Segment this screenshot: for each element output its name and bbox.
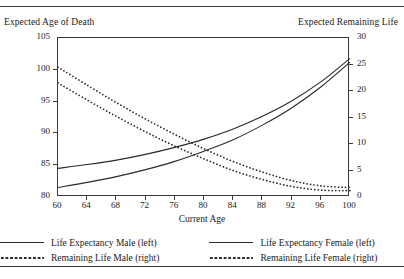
- x-axis-tick-label: 100: [334, 200, 364, 210]
- y-axis-right-tick-label: 30: [357, 31, 391, 41]
- legend-row-solid: Life Expectancy Male (left) Life Expecta…: [0, 235, 404, 250]
- legend-item-remaining-life-male: Remaining Life Male (right): [0, 253, 209, 263]
- solid-line-swatch-icon: [209, 238, 253, 247]
- dotted-line-swatch-icon: [209, 253, 253, 262]
- y-axis-right-tick-label: 15: [357, 111, 391, 121]
- legend-label: Remaining Life Female (right): [260, 253, 377, 263]
- legend-item-life-expectancy-female: Life Expectancy Female (left): [209, 238, 404, 248]
- y-axis-left-tick-label: 95: [16, 95, 50, 105]
- legend-label: Life Expectancy Male (left): [51, 238, 157, 248]
- series-lines: [58, 38, 350, 197]
- series-line: [58, 83, 350, 191]
- x-axis-tick-label: 72: [130, 200, 160, 210]
- x-axis-tick-label: 68: [100, 200, 130, 210]
- left-axis-title: Expected Age of Death: [4, 17, 94, 27]
- chart-page: Expected Age of Death Expected Remaining…: [0, 0, 404, 279]
- bottom-divider: [0, 266, 404, 267]
- x-axis-tick-label: 80: [188, 200, 218, 210]
- legend-label: Remaining Life Male (right): [51, 253, 159, 263]
- series-line: [58, 58, 350, 168]
- x-axis-tick-label: 76: [159, 200, 189, 210]
- dotted-line-swatch-icon: [0, 253, 44, 262]
- y-axis-left-tick-label: 80: [16, 190, 50, 200]
- series-line: [58, 62, 350, 187]
- y-axis-right-tick-label: 20: [357, 84, 391, 94]
- chart-legend: Life Expectancy Male (left) Life Expecta…: [0, 235, 404, 265]
- x-axis-tick-label: 60: [42, 200, 72, 210]
- x-axis-tick-label: 84: [217, 200, 247, 210]
- y-axis-right-tick-label: 5: [357, 164, 391, 174]
- x-axis-label: Current Age: [0, 214, 404, 224]
- x-axis-tick-label: 92: [276, 200, 306, 210]
- right-axis-title: Expected Remaining Life: [298, 17, 398, 27]
- legend-item-remaining-life-female: Remaining Life Female (right): [209, 253, 404, 263]
- y-axis-left-tick-label: 90: [16, 126, 50, 136]
- y-axis-left-tick-label: 85: [16, 158, 50, 168]
- plot-area: [57, 37, 349, 196]
- series-line: [58, 67, 350, 187]
- y-axis-right-tick-label: 0: [357, 190, 391, 200]
- legend-label: Life Expectancy Female (left): [260, 238, 374, 248]
- x-axis-tick-label: 88: [246, 200, 276, 210]
- y-axis-left-tick-label: 100: [16, 63, 50, 73]
- top-divider: [0, 6, 404, 7]
- y-axis-left-tick-label: 105: [16, 31, 50, 41]
- y-axis-right-tick-label: 10: [357, 137, 391, 147]
- legend-row-dotted: Remaining Life Male (right) Remaining Li…: [0, 250, 404, 265]
- solid-line-swatch-icon: [0, 238, 44, 247]
- x-axis-tick-label: 64: [71, 200, 101, 210]
- x-axis-tick-label: 96: [305, 200, 335, 210]
- y-axis-right-tick-label: 25: [357, 58, 391, 68]
- legend-item-life-expectancy-male: Life Expectancy Male (left): [0, 238, 209, 248]
